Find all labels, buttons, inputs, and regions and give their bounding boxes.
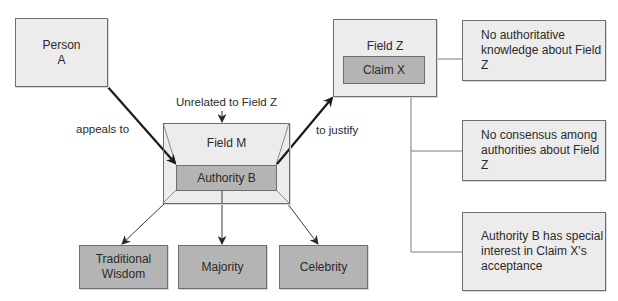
- condition-3-line3: acceptance: [481, 259, 542, 274]
- condition-2-line1: No consensus among: [481, 128, 597, 143]
- person-a-line1: Person: [42, 38, 80, 53]
- person-a-node: Person A: [15, 18, 108, 87]
- condition-1-line2: knowledge about Field Z: [481, 43, 605, 73]
- majority-node: Majority: [178, 245, 267, 289]
- condition-2-line2: authorities about Field Z: [481, 143, 605, 173]
- condition-3-line2: interest in Claim X's: [481, 244, 587, 259]
- claim-x-label: Claim X: [363, 63, 405, 78]
- to-traditional-wisdom-arrow: [122, 203, 165, 244]
- field-z-label: Field Z: [367, 39, 404, 54]
- condition-special-interest: Authority B has special interest in Clai…: [462, 212, 606, 291]
- traditional-wisdom-line2: Wisdom: [102, 267, 145, 282]
- claim-x-node: Claim X: [343, 56, 425, 84]
- traditional-wisdom-line1: Traditional: [96, 252, 152, 267]
- celebrity-label: Celebrity: [300, 260, 347, 275]
- appeals-to-label: appeals to: [76, 123, 129, 135]
- condition-3-line1: Authority B has special: [481, 229, 603, 244]
- to-justify-label: to justify: [316, 124, 358, 136]
- field-m-node: Field M: [163, 123, 290, 204]
- condition-no-authoritative-knowledge: No authoritative knowledge about Field Z: [462, 20, 606, 81]
- authority-b-label: Authority B: [197, 171, 256, 186]
- authority-b-node: Authority B: [176, 165, 277, 191]
- condition-1-line1: No authoritative: [481, 28, 565, 43]
- person-a-line2: A: [57, 53, 65, 68]
- condition-no-consensus: No consensus among authorities about Fie…: [462, 120, 606, 181]
- celebrity-node: Celebrity: [279, 245, 368, 289]
- field-m-label: Field M: [207, 136, 246, 151]
- traditional-wisdom-node: Traditional Wisdom: [79, 245, 168, 289]
- unrelated-label: Unrelated to Field Z: [176, 96, 277, 108]
- to-celebrity-arrow: [287, 203, 318, 244]
- majority-label: Majority: [201, 260, 243, 275]
